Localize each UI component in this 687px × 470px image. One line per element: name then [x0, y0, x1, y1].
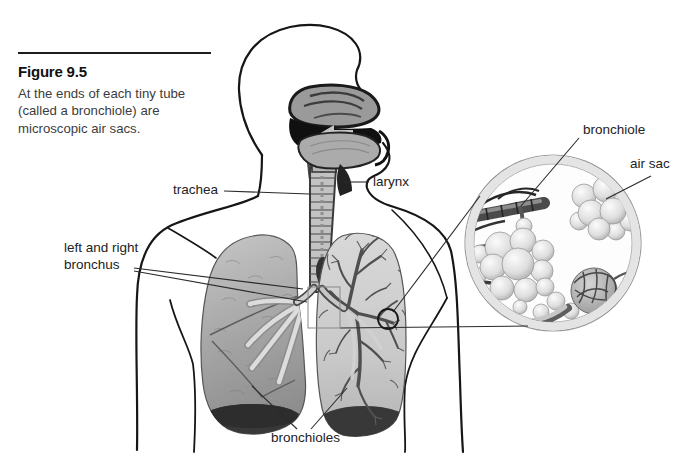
figure-number: Figure 9.5 [18, 63, 214, 80]
left-armpit-line [170, 300, 195, 452]
right-lung [200, 235, 306, 438]
left-lung [316, 233, 412, 442]
label-larynx: larynx [373, 174, 409, 191]
label-trachea: trachea [130, 182, 218, 199]
caption-rule [18, 52, 211, 54]
nasal-cavity [290, 85, 379, 127]
label-bronchioles: bronchioles [271, 430, 340, 447]
inset-magnified-view [463, 155, 663, 331]
air-sac-cluster-right [638, 236, 663, 276]
label-air-sac: air sac [630, 156, 670, 173]
left-shoulder-fold [168, 228, 216, 258]
tongue [298, 133, 380, 169]
figure-page: Figure 9.5 At the ends of each tiny tube… [0, 0, 687, 470]
figure-caption-block: Figure 9.5 At the ends of each tiny tube… [18, 52, 214, 137]
right-torso-line [404, 298, 447, 452]
label-left-right-bronchus: left and right bronchus [64, 240, 146, 274]
label-bronchiole: bronchiole [583, 122, 645, 139]
figure-caption: At the ends of each tiny tube (called a … [18, 85, 200, 137]
epiglottis [337, 164, 352, 196]
leader-trachea [224, 191, 309, 194]
